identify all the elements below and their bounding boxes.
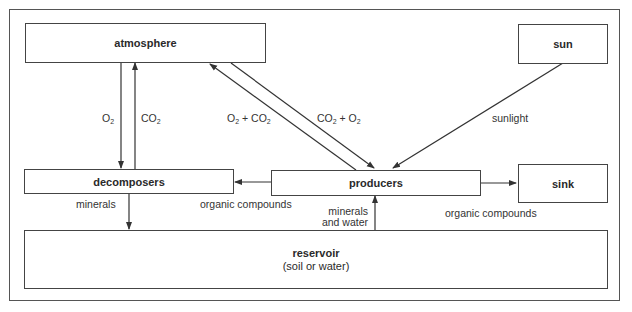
label-minerals-water-2: and water [314,216,368,228]
label-organic-compounds-left: organic compounds [200,198,292,210]
node-label: decomposers [93,176,165,188]
node-label: sun [553,38,573,50]
node-atmosphere: atmosphere [25,23,266,63]
label-organic-compounds-right: organic compounds [445,207,537,219]
node-label: reservoir [292,247,339,260]
node-sink: sink [518,164,608,203]
label-o2: O2 [102,112,114,128]
node-label: producers [349,177,403,189]
label-sunlight: sunlight [492,112,528,124]
node-reservoir: reservoir (soil or water) [24,230,608,289]
label-co2: CO2 [141,112,161,128]
label-co2-o2: CO2 + O2 [317,112,361,128]
node-label: atmosphere [114,37,176,49]
arrow-sunlight [393,63,563,168]
label-o2-co2: O2 + CO2 [227,112,271,128]
label-minerals: minerals [76,198,116,210]
node-sublabel: (soil or water) [283,260,350,273]
node-decomposers: decomposers [24,169,234,194]
node-sun: sun [518,24,608,64]
node-label: sink [552,178,574,190]
node-producers: producers [271,170,481,196]
